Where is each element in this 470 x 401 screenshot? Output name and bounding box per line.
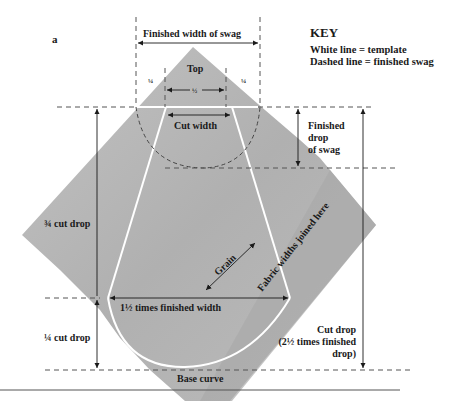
- key-line-template: White line = template: [310, 44, 407, 55]
- base-curve-label: Base curve: [177, 373, 224, 384]
- quarter-right-label: ¼: [241, 77, 246, 85]
- one-and-half-width-label: 1½ times finished width: [120, 302, 222, 313]
- half-label: ½: [192, 87, 197, 95]
- top-label: Top: [187, 63, 204, 74]
- key-title: KEY: [310, 25, 339, 40]
- quarter-left-label: ¼: [148, 77, 153, 85]
- cut-drop-line3: drop): [332, 348, 356, 360]
- finished-drop-line1: Finished: [308, 120, 345, 131]
- quarter-cut-drop-label: ¼ cut drop: [44, 332, 91, 343]
- cut-drop-line1: Cut drop: [317, 324, 356, 335]
- swag-template-diagram: a KEY White line = template Dashed line …: [0, 0, 470, 401]
- finished-drop-line2: drop: [308, 132, 329, 143]
- finished-width-label: Finished width of swag: [143, 28, 241, 39]
- cut-width-label: Cut width: [174, 120, 218, 131]
- cut-drop-line2: (2½ times finished: [279, 336, 357, 348]
- finished-drop-line3: of swag: [308, 144, 340, 155]
- key-line-dashed: Dashed line = finished swag: [310, 56, 435, 67]
- figure-label: a: [52, 33, 58, 45]
- three-quarter-cut-drop-label: ¾ cut drop: [44, 218, 91, 229]
